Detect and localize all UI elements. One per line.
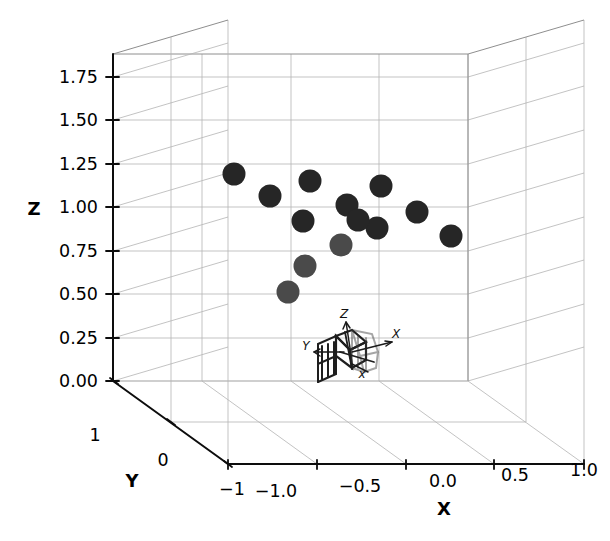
z-axis-title: Z <box>27 198 40 219</box>
z-tick-label: 1.50 <box>59 110 98 130</box>
scatter-point <box>223 163 246 186</box>
x-tick-label: 0.5 <box>501 465 529 485</box>
scatter-point <box>294 255 317 278</box>
z-tick-label: 1.75 <box>59 67 98 87</box>
z-tick-label: 1.00 <box>59 197 98 217</box>
scatter3d-plot: 1.75 1.50 1.25 1.00 0.75 0.50 0.25 0.00 … <box>0 0 610 541</box>
figure-canvas: 1.75 1.50 1.25 1.00 0.75 0.50 0.25 0.00 … <box>0 0 610 541</box>
scatter-point <box>370 175 393 198</box>
x-tick-label: 0.0 <box>429 471 457 491</box>
z-tick-label: 0.25 <box>59 328 98 348</box>
gripper-frame-x-tip-label: x <box>357 367 366 381</box>
y-axis-title: Y <box>124 470 139 491</box>
gripper-frame-z-label: Z <box>339 307 349 321</box>
z-tick-label: 1.25 <box>59 154 98 174</box>
z-tick-label: 0.50 <box>59 284 98 304</box>
z-tick-label: 0.75 <box>59 241 98 261</box>
y-tick-label: 0 <box>157 450 168 470</box>
x-axis-title: X <box>437 498 451 519</box>
scatter-point <box>292 210 315 233</box>
scatter-point <box>330 234 353 257</box>
x-tick-label: 1.0 <box>570 460 598 480</box>
z-tick-label: 0.00 <box>59 371 98 391</box>
scatter-point <box>406 201 429 224</box>
x-tick-labels: −1.0 −0.5 0.0 0.5 1.0 <box>255 460 598 501</box>
scatter-point <box>259 185 282 208</box>
scatter-point <box>299 170 322 193</box>
x-tick-label: −1.0 <box>255 481 298 501</box>
y-tick-label: −1 <box>219 479 245 499</box>
scatter-point <box>277 281 300 304</box>
z-tick-labels: 1.75 1.50 1.25 1.00 0.75 0.50 0.25 0.00 <box>59 67 98 391</box>
gripper-frame-x-label: X <box>391 327 401 341</box>
x-tick-label: −0.5 <box>339 476 382 496</box>
scatter-point <box>347 209 370 232</box>
scatter-point <box>440 225 463 248</box>
y-tick-label: 1 <box>89 425 100 445</box>
